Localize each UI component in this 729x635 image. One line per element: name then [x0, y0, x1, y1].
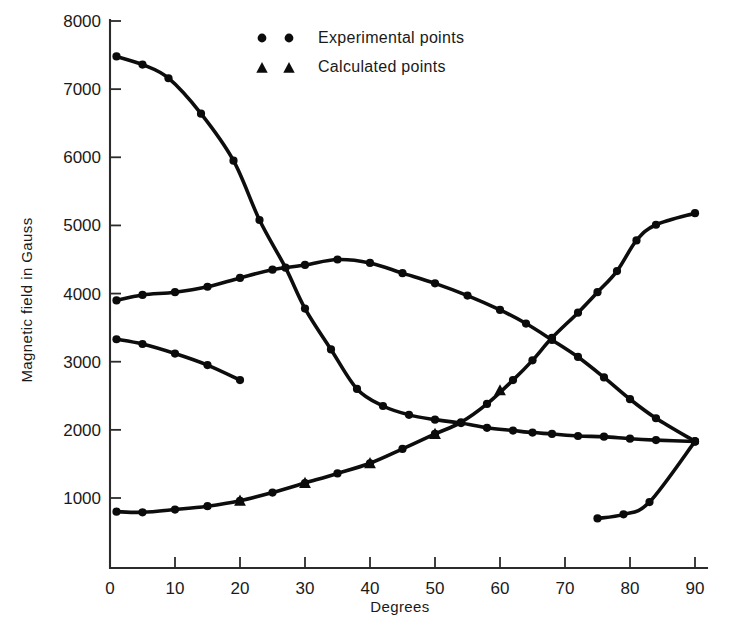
y-tick-label: 5000 [63, 216, 101, 235]
experimental-point-marker [463, 292, 471, 300]
experimental-point-marker [398, 269, 406, 277]
experimental-point-marker [255, 216, 263, 224]
curve-short-lower-right-branch [598, 441, 696, 518]
experimental-point-marker [301, 304, 309, 312]
experimental-point-marker [366, 259, 374, 267]
experimental-point-marker [528, 356, 536, 364]
experimental-point-marker [327, 345, 335, 353]
x-tick-label: 30 [296, 579, 315, 598]
experimental-point-marker [171, 288, 179, 296]
experimental-point-marker [203, 502, 211, 510]
experimental-point-marker [457, 418, 465, 426]
experimental-point-marker [509, 426, 517, 434]
chart-legend: Experimental pointsCalculated points [256, 29, 464, 75]
experimental-point-marker [203, 361, 211, 369]
magnetic-field-vs-degrees-chart: 1000200030004000500060007000800001020304… [0, 0, 729, 635]
experimental-point-marker [138, 61, 146, 69]
chart-axes [110, 20, 707, 568]
experimental-point-marker [645, 498, 653, 506]
experimental-point-marker [379, 402, 387, 410]
legend-item-calculated: Calculated points [256, 58, 446, 75]
legend-triangle-icon [283, 62, 294, 73]
experimental-point-marker [236, 274, 244, 282]
y-tick-label: 2000 [63, 421, 101, 440]
chart-figure: 1000200030004000500060007000800001020304… [0, 0, 729, 635]
legend-triangle-icon [256, 62, 267, 73]
experimental-point-marker [268, 266, 276, 274]
experimental-point-marker [548, 430, 556, 438]
experimental-point-marker [138, 508, 146, 516]
x-tick-label: 40 [361, 579, 380, 598]
y-tick-label: 3000 [63, 353, 101, 372]
experimental-point-marker [652, 414, 660, 422]
x-tick-label: 50 [426, 579, 445, 598]
experimental-point-marker [483, 424, 491, 432]
experimental-point-marker [405, 411, 413, 419]
experimental-point-marker [268, 488, 276, 496]
experimental-point-marker [203, 283, 211, 291]
experimental-point-marker [483, 400, 491, 408]
experimental-point-marker [548, 334, 556, 342]
experimental-point-marker [600, 373, 608, 381]
experimental-point-marker [333, 255, 341, 263]
y-tick-label: 7000 [63, 80, 101, 99]
curve-short-upper-left-branch [117, 339, 241, 380]
experimental-point-marker [652, 221, 660, 229]
x-tick-label: 60 [491, 579, 510, 598]
legend-item-experimental: Experimental points [258, 29, 465, 46]
x-tick-label: 10 [166, 579, 185, 598]
experimental-point-marker [600, 433, 608, 441]
experimental-point-marker [112, 296, 120, 304]
experimental-point-marker [626, 435, 634, 443]
experimental-point-marker [652, 436, 660, 444]
experimental-point-marker [574, 353, 582, 361]
experimental-point-marker [301, 261, 309, 269]
experimental-point-marker [138, 340, 146, 348]
experimental-point-marker [632, 236, 640, 244]
legend-dot-icon [285, 34, 294, 43]
experimental-point-marker [197, 110, 205, 118]
experimental-point-marker [164, 74, 172, 82]
experimental-point-marker [626, 395, 634, 403]
experimental-point-marker [593, 288, 601, 296]
experimental-point-marker [528, 428, 536, 436]
experimental-point-marker [613, 267, 621, 275]
experimental-point-marker [431, 279, 439, 287]
experimental-point-marker [353, 385, 361, 393]
experimental-point-marker [522, 319, 530, 327]
y-axis-title: Magnetic field in Gauss [18, 217, 35, 382]
experimental-point-marker [431, 416, 439, 424]
x-tick-label: 70 [556, 579, 575, 598]
x-tick-label: 20 [231, 579, 250, 598]
experimental-point-marker [496, 306, 504, 314]
x-tick-label: 0 [105, 579, 114, 598]
experimental-point-marker [112, 52, 120, 60]
experimental-point-marker [691, 437, 699, 445]
experimental-point-marker [593, 514, 601, 522]
y-tick-label: 1000 [63, 489, 101, 508]
experimental-point-marker [281, 264, 289, 272]
legend-label: Experimental points [318, 29, 464, 46]
experimental-point-marker [236, 376, 244, 384]
x-axis-title: Degrees [370, 598, 430, 615]
x-tick-label: 90 [686, 579, 705, 598]
experimental-point-marker [691, 209, 699, 217]
legend-dot-icon [258, 34, 267, 43]
experimental-point-marker [398, 445, 406, 453]
experimental-point-marker [333, 469, 341, 477]
experimental-point-marker [112, 335, 120, 343]
experimental-point-marker [229, 157, 237, 165]
experimental-point-marker [112, 508, 120, 516]
experimental-point-marker [574, 432, 582, 440]
legend-label: Calculated points [318, 58, 446, 75]
experimental-point-marker [171, 349, 179, 357]
experimental-point-marker [138, 291, 146, 299]
y-tick-label: 4000 [63, 285, 101, 304]
y-tick-label: 8000 [63, 12, 101, 31]
experimental-point-marker [574, 309, 582, 317]
experimental-point-marker [619, 510, 627, 518]
x-tick-label: 80 [621, 579, 640, 598]
experimental-point-marker [171, 505, 179, 513]
y-tick-label: 6000 [63, 148, 101, 167]
experimental-point-marker [509, 376, 517, 384]
